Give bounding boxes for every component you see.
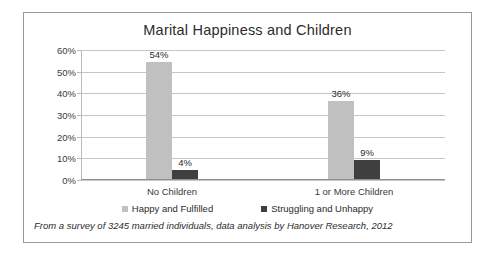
y-tick-label: 60% [57, 45, 76, 56]
chart-legend: Happy and FulfilledStruggling and Unhapp… [24, 203, 471, 214]
chart-title: Marital Happiness and Children [24, 22, 471, 38]
y-tick-label: 0% [62, 175, 76, 186]
legend-item[interactable]: Happy and Fulfilled [122, 203, 213, 214]
y-tick-label: 30% [57, 110, 76, 121]
legend-label: Happy and Fulfilled [132, 203, 213, 214]
gridline [81, 50, 445, 51]
chart-container: Marital Happiness and Children 60%50%40%… [23, 12, 472, 243]
gridline [81, 158, 445, 159]
y-tick-label: 40% [57, 88, 76, 99]
legend-item[interactable]: Struggling and Unhappy [261, 203, 373, 214]
gridline [81, 115, 445, 116]
gridline [81, 72, 445, 73]
y-tick-mark [77, 137, 81, 138]
category-label: 1 or More Children [315, 186, 394, 197]
gridline [81, 137, 445, 138]
y-tick-label: 50% [57, 66, 76, 77]
bar [172, 170, 198, 179]
bar [328, 101, 354, 179]
plot-area: 60%50%40%30%20%10%0% 54%4%36%9% No Child… [81, 50, 445, 180]
bar-value-label: 9% [360, 147, 374, 158]
y-tick-label: 10% [57, 153, 76, 164]
legend-swatch-icon [122, 206, 128, 212]
bar [354, 160, 380, 180]
y-tick-mark [77, 158, 81, 159]
legend-swatch-icon [261, 206, 267, 212]
bar-value-label: 36% [331, 88, 350, 99]
y-tick-mark [77, 180, 81, 181]
bar-value-label: 4% [178, 157, 192, 168]
y-tick-label: 20% [57, 131, 76, 142]
legend-label: Struggling and Unhappy [271, 203, 373, 214]
chart-footnote: From a survey of 3245 married individual… [34, 220, 393, 231]
category-label: No Children [147, 186, 197, 197]
gridline [81, 93, 445, 94]
y-tick-mark [77, 93, 81, 94]
bar-value-label: 54% [149, 49, 168, 60]
bar [146, 62, 172, 179]
y-tick-mark [77, 50, 81, 51]
y-tick-mark [77, 115, 81, 116]
gridline [81, 180, 445, 181]
y-tick-mark [77, 72, 81, 73]
